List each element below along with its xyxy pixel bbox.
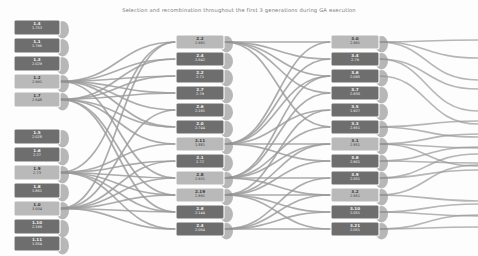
flow-node[interactable] bbox=[14, 129, 60, 144]
flow-node[interactable] bbox=[176, 137, 224, 151]
flow-node[interactable] bbox=[331, 222, 379, 236]
flow-node[interactable] bbox=[176, 103, 224, 117]
flow-node[interactable] bbox=[331, 69, 379, 83]
flow-node[interactable] bbox=[14, 219, 60, 234]
flow-node[interactable] bbox=[331, 86, 379, 100]
sankey-graphics bbox=[0, 0, 478, 256]
flow-node[interactable] bbox=[176, 154, 224, 168]
flow-node[interactable] bbox=[331, 103, 379, 117]
flow-node[interactable] bbox=[331, 171, 379, 185]
flow-node[interactable] bbox=[14, 38, 60, 53]
flow-node[interactable] bbox=[176, 35, 224, 49]
flow-node[interactable] bbox=[331, 137, 379, 151]
flow-node[interactable] bbox=[331, 52, 379, 66]
flow-node[interactable] bbox=[331, 154, 379, 168]
flow-node[interactable] bbox=[14, 236, 60, 251]
flow-node[interactable] bbox=[331, 120, 379, 134]
flow-node[interactable] bbox=[14, 183, 60, 198]
flow-node[interactable] bbox=[14, 201, 60, 216]
flow-node[interactable] bbox=[14, 74, 60, 89]
flow-node[interactable] bbox=[176, 171, 224, 185]
flow-node[interactable] bbox=[176, 205, 224, 219]
flow-node[interactable] bbox=[176, 188, 224, 202]
flow-node[interactable] bbox=[331, 188, 379, 202]
flow-node[interactable] bbox=[331, 205, 379, 219]
flow-node[interactable] bbox=[14, 147, 60, 162]
flow-node[interactable] bbox=[14, 20, 60, 35]
flow-node[interactable] bbox=[331, 35, 379, 49]
flow-node[interactable] bbox=[176, 69, 224, 83]
flow-node[interactable] bbox=[14, 92, 60, 107]
chart-canvas: Selection and recombination throughout t… bbox=[0, 0, 478, 256]
flow-node[interactable] bbox=[14, 56, 60, 71]
flow-node[interactable] bbox=[14, 165, 60, 180]
flow-node[interactable] bbox=[176, 222, 224, 236]
flow-node[interactable] bbox=[176, 52, 224, 66]
flow-node[interactable] bbox=[176, 86, 224, 100]
flow-node[interactable] bbox=[176, 120, 224, 134]
